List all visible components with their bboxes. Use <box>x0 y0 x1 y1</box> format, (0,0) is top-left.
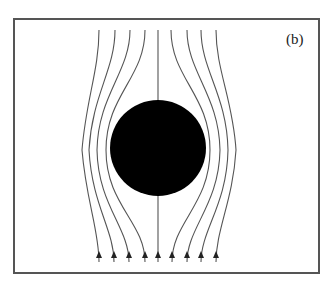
solid-disk <box>110 100 206 196</box>
streamline-diagram <box>0 0 324 285</box>
panel-label: (b) <box>286 31 304 48</box>
